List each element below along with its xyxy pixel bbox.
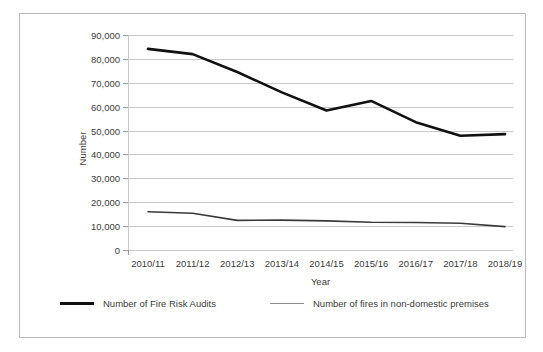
- legend-item-non-domestic-fires: Number of fires in non-domestic premises: [270, 298, 489, 309]
- plot-area: 010,00020,00030,00040,00050,00060,00070,…: [128, 35, 513, 250]
- legend-swatch-fire-risk-audits: [60, 302, 94, 305]
- chart-legend: Number of Fire Risk Audits Number of fir…: [60, 298, 490, 309]
- legend-swatch-non-domestic-fires: [270, 303, 304, 304]
- y-tick-label: 90,000: [91, 30, 120, 41]
- y-tick-label: 10,000: [91, 221, 120, 232]
- y-tick-label: 0: [115, 245, 120, 256]
- y-tick-label: 70,000: [91, 77, 120, 88]
- x-tick-label: 2015/16: [354, 258, 388, 269]
- x-axis-title: Year: [128, 276, 513, 287]
- x-axis-line: [128, 250, 513, 251]
- y-tick-label: 50,000: [91, 125, 120, 136]
- x-tick-label: 2014/15: [309, 258, 343, 269]
- x-tick-label: 2016/17: [399, 258, 433, 269]
- x-tick-label: 2011/12: [176, 258, 210, 269]
- series-lines: [128, 35, 513, 250]
- x-tick-mark: [128, 250, 129, 255]
- legend-label-fire-risk-audits: Number of Fire Risk Audits: [103, 298, 216, 309]
- x-tick-label: 2013/14: [265, 258, 299, 269]
- x-tick-label: 2018/19: [488, 258, 522, 269]
- chart-frame: Number 010,00020,00030,00040,00050,00060…: [19, 13, 526, 338]
- y-tick-label: 20,000: [91, 197, 120, 208]
- x-tick-label: 2010/11: [131, 258, 165, 269]
- legend-item-fire-risk-audits: Number of Fire Risk Audits: [60, 298, 216, 309]
- series-line-non-domestic-fires: [148, 212, 505, 227]
- y-tick-label: 40,000: [91, 149, 120, 160]
- y-tick-label: 80,000: [91, 53, 120, 64]
- y-tick-label: 30,000: [91, 173, 120, 184]
- legend-label-non-domestic-fires: Number of fires in non-domestic premises: [313, 298, 489, 309]
- series-line-fire-risk-audits: [148, 49, 505, 136]
- x-tick-label: 2012/13: [220, 258, 254, 269]
- y-axis-title: Number: [77, 132, 88, 166]
- x-tick-label: 2017/18: [443, 258, 477, 269]
- y-tick-label: 60,000: [91, 101, 120, 112]
